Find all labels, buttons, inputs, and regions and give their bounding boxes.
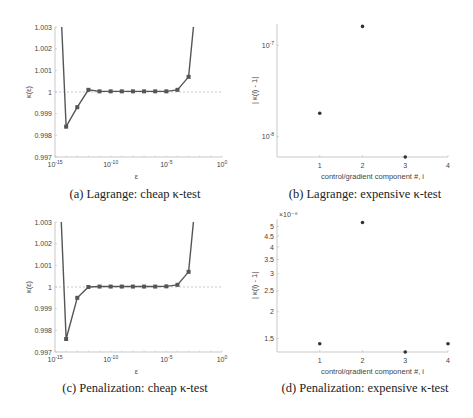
x-tick-label: 3 bbox=[403, 357, 407, 364]
y-tick-label: 1.002 bbox=[34, 45, 52, 52]
caption-c: (c) Penalization: cheap κ-test bbox=[40, 381, 230, 396]
data-point bbox=[131, 285, 135, 289]
tick-label: 10-15 bbox=[47, 159, 62, 168]
chart-b: 123410-810-7control/gradient component #… bbox=[240, 0, 473, 210]
data-point bbox=[361, 221, 365, 225]
tick-label: 100 bbox=[217, 354, 228, 363]
y-axis-label: | κ(i) - 1| bbox=[250, 77, 259, 104]
x-axis-label: ε bbox=[135, 172, 139, 181]
tick-label: 10-5 bbox=[160, 159, 172, 168]
y-tick-label: 3 bbox=[270, 270, 274, 277]
x-tick-label: 1 bbox=[318, 162, 322, 169]
y-tick-label: 4 bbox=[270, 244, 274, 251]
data-point bbox=[318, 342, 322, 346]
data-point bbox=[86, 285, 90, 289]
y-tick-label: 1 bbox=[48, 284, 52, 291]
tick-label: 10-10 bbox=[103, 354, 118, 363]
data-point bbox=[361, 25, 365, 29]
data-line bbox=[55, 195, 200, 339]
data-point bbox=[175, 283, 179, 287]
y-tick-label: 1.003 bbox=[34, 24, 52, 31]
y-tick-label: 1.5 bbox=[264, 335, 274, 342]
data-point bbox=[98, 285, 102, 289]
data-point bbox=[142, 285, 146, 289]
data-point bbox=[131, 89, 135, 93]
y-axis-label: κ(ε) bbox=[24, 280, 33, 293]
x-tick-label: 3 bbox=[403, 162, 407, 169]
data-point bbox=[109, 89, 113, 93]
y-tick-label: 1.003 bbox=[34, 219, 52, 226]
chart-d: 12341.522.533.544.55×10⁻⁸control/gradien… bbox=[240, 195, 473, 375]
tick-label: 10-7 bbox=[262, 40, 274, 49]
y-scale-note: ×10⁻⁸ bbox=[279, 211, 298, 218]
data-point bbox=[175, 88, 179, 92]
data-point bbox=[164, 89, 168, 93]
data-point bbox=[142, 89, 146, 93]
chart-c: 0.9970.9980.99911.0011.0021.00310-1510-1… bbox=[0, 195, 240, 375]
tick-label: 10-15 bbox=[47, 354, 62, 363]
data-point bbox=[187, 75, 191, 79]
data-point bbox=[403, 155, 407, 159]
y-tick-label: 0.998 bbox=[34, 132, 52, 139]
x-tick-label: 2 bbox=[361, 162, 365, 169]
data-point bbox=[86, 88, 90, 92]
y-tick-label: 1.002 bbox=[34, 240, 52, 247]
tick-label: 10-10 bbox=[103, 159, 118, 168]
chart-a: 0.9970.9980.99911.0011.0021.00310-1510-1… bbox=[0, 0, 240, 210]
data-point bbox=[120, 89, 124, 93]
data-point bbox=[403, 350, 407, 354]
data-point bbox=[75, 296, 79, 300]
y-tick-label: 2 bbox=[270, 308, 274, 315]
y-tick-label: 0.997 bbox=[34, 349, 52, 356]
data-point bbox=[446, 342, 450, 346]
y-tick-label: 2.5 bbox=[264, 287, 274, 294]
y-axis-label: | κ(i) - 1| bbox=[250, 272, 259, 299]
data-point bbox=[318, 112, 322, 116]
data-point bbox=[153, 89, 157, 93]
tick-label: 100 bbox=[217, 159, 228, 168]
x-axis-label: ε bbox=[135, 367, 139, 375]
y-tick-label: 0.998 bbox=[34, 327, 52, 334]
x-tick-label: 1 bbox=[318, 357, 322, 364]
x-axis-label: control/gradient component #, i bbox=[321, 367, 424, 375]
data-point bbox=[120, 285, 124, 289]
data-point bbox=[64, 125, 68, 129]
caption-a: (a) Lagrange: cheap κ-test bbox=[40, 187, 230, 202]
data-point bbox=[187, 270, 191, 274]
data-point bbox=[164, 284, 168, 288]
caption-b: (b) Lagrange: expensive κ-test bbox=[270, 187, 460, 202]
tick-label: 10-8 bbox=[262, 131, 274, 140]
x-tick-label: 4 bbox=[446, 357, 450, 364]
y-tick-label: 1.001 bbox=[34, 262, 52, 269]
x-tick-label: 4 bbox=[446, 162, 450, 169]
data-point bbox=[64, 337, 68, 341]
data-point bbox=[98, 89, 102, 93]
y-tick-label: 1.001 bbox=[34, 67, 52, 74]
y-tick-label: 0.997 bbox=[34, 154, 52, 161]
y-tick-label: 0.999 bbox=[34, 110, 52, 117]
caption-d: (d) Penalization: expensive κ-test bbox=[270, 381, 460, 396]
x-tick-label: 2 bbox=[361, 357, 365, 364]
y-tick-label: 5 bbox=[270, 223, 274, 230]
y-tick-label: 1 bbox=[48, 89, 52, 96]
y-tick-label: 3.5 bbox=[264, 256, 274, 263]
tick-label: 10-5 bbox=[160, 354, 172, 363]
data-point bbox=[109, 285, 113, 289]
x-axis-label: control/gradient component #, i bbox=[321, 172, 424, 181]
data-point bbox=[153, 285, 157, 289]
y-tick-label: 4.5 bbox=[264, 233, 274, 240]
y-axis-label: κ(ε) bbox=[24, 85, 33, 98]
data-point bbox=[75, 105, 79, 109]
y-tick-label: 0.999 bbox=[34, 305, 52, 312]
